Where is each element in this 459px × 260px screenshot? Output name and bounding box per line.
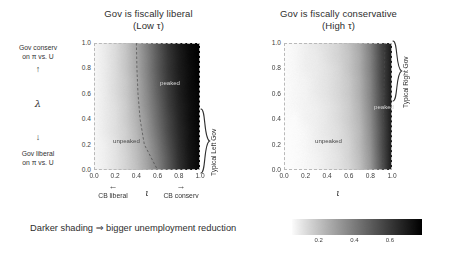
region-label-peaked-left: peaked (160, 79, 180, 86)
y-axis-bottom-label-line2: on π vs. U (6, 159, 70, 168)
figure-root: Gov is fiscally liberal (Low τ) Gov is f… (0, 0, 459, 260)
x-tick-label: 1.0 (190, 172, 210, 179)
heatmap-canvas-left (94, 43, 200, 170)
y-tick-label: 0.6 (66, 90, 91, 97)
y-axis-bottom-label-line1: Gov liberal (6, 150, 70, 159)
y-tick-label: 0.2 (256, 141, 281, 148)
x-tick-label: 0.8 (360, 172, 380, 179)
x-tick-label: 0.2 (296, 172, 316, 179)
x-tick-label: 0.6 (148, 172, 168, 179)
x-tick-label: 0.0 (84, 172, 104, 179)
y-axis-symbol: λ (6, 98, 70, 109)
y-axis-down-arrow-icon: ↓ (6, 133, 70, 142)
y-tick-label: 0.4 (66, 115, 91, 122)
y-tick-label: 1.0 (256, 39, 281, 46)
x-tick-label: 1.0 (382, 172, 402, 179)
y-tick-label: 0.2 (66, 141, 91, 148)
bracket-left-gov-label: Typical Left Gov (210, 104, 219, 176)
panel-left-title-line2: (Low τ) (86, 20, 211, 32)
panel-right-title-line2: (High τ) (271, 20, 406, 32)
region-label-unpeaked-left: unpeaked (113, 137, 140, 144)
colorbar-tick-label: 0.2 (309, 237, 329, 243)
colorbar-canvas (292, 219, 422, 235)
heatmap-panel-left (94, 43, 200, 170)
y-axis-top-label-line2: on π vs. U (6, 53, 70, 62)
colorbar (292, 219, 422, 235)
x-tick-label: 0.4 (126, 172, 146, 179)
y-tick-label: 1.0 (66, 39, 91, 46)
bracket-right-gov-label: Typical Right Gov (402, 36, 411, 108)
y-axis-top-label: Gov conserv on π vs. U (6, 44, 70, 61)
region-label-peaked-right: peaked (374, 103, 394, 110)
x-tick-label: 0.8 (169, 172, 189, 179)
x-tick-label: 0.0 (274, 172, 294, 179)
y-tick-label: 0.6 (256, 90, 281, 97)
y-axis-top-label-line1: Gov conserv (6, 44, 70, 53)
y-tick-label: 0.4 (256, 115, 281, 122)
y-tick-label: 0.8 (66, 64, 91, 71)
panel-right-title-line1: Gov is fiscally conservative (271, 8, 406, 20)
x-tick-label: 0.2 (105, 172, 125, 179)
colorbar-tick-label: 0.6 (380, 237, 400, 243)
panel-right-title: Gov is fiscally conservative (High τ) (271, 8, 406, 31)
x-tick-label: 0.4 (317, 172, 337, 179)
colorbar-tick-label: 0.4 (344, 237, 364, 243)
panel-left-title: Gov is fiscally liberal (Low τ) (86, 8, 211, 31)
y-axis-bottom-label: Gov liberal on π vs. U (6, 150, 70, 167)
x-tick-label: 0.6 (339, 172, 359, 179)
x-axis-right-arrow-icon: → (158, 182, 204, 191)
figure-caption: Darker shading ⇒ bigger unemployment red… (30, 222, 270, 233)
region-label-unpeaked-right: unpeaked (315, 137, 342, 144)
y-tick-label: 0.8 (256, 64, 281, 71)
y-axis-up-arrow-icon: ↑ (6, 65, 70, 74)
x-axis-right-label: CB conserv (154, 192, 208, 201)
x-axis-symbol-right: ι (315, 188, 361, 198)
panel-left-title-line1: Gov is fiscally liberal (86, 8, 211, 20)
